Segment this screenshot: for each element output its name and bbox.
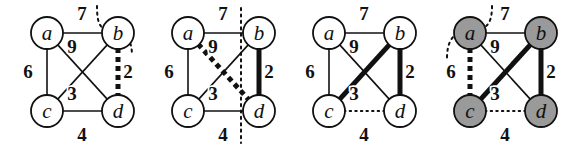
weight-label-ad: 9 [67,36,77,57]
node-a-label: a [42,21,53,45]
node-d-label: d [113,99,124,123]
panel-4-canvas: abcd776699332244 [423,0,564,147]
weight-label-cd: 4 [218,124,228,145]
panel-3: abcd776699332244 [282,0,423,147]
node-c-label: c [42,99,52,123]
node-b-label: b [395,21,406,45]
panel-3-canvas: abcd776699332244 [282,0,423,147]
node-a-label: a [324,21,335,45]
weight-label-bc: 3 [490,83,500,104]
weight-label-ac: 6 [446,61,456,82]
weight-label-cd: 4 [359,124,369,145]
weight-label-bc: 3 [208,83,218,104]
node-d-label: d [395,99,406,123]
weight-label-ac: 6 [164,61,174,82]
node-c-label: c [465,99,475,123]
weight-label-ab: 7 [77,3,87,24]
weight-label-bd: 2 [405,61,415,82]
weight-label-ab: 7 [500,3,510,24]
weight-label-ab: 7 [359,3,369,24]
weight-label-bd: 2 [264,61,274,82]
node-b-label: b [254,21,265,45]
panel-4: abcd776699332244 [423,0,564,147]
weight-label-ac: 6 [305,61,315,82]
weight-label-ad: 9 [490,36,500,57]
node-c-label: c [324,99,334,123]
node-c-label: c [183,99,193,123]
panel-1-canvas: abcd776699332244 [0,0,141,147]
weight-label-bc: 3 [67,83,77,104]
panel-2: abcd776699332244 [141,0,282,147]
panel-1: abcd776699332244 [0,0,141,147]
weight-label-bc: 3 [349,83,359,104]
weight-label-ad: 9 [349,36,359,57]
weight-label-bd: 2 [123,61,133,82]
weight-label-ab: 7 [218,3,228,24]
node-a-label: a [183,21,194,45]
weight-label-ac: 6 [23,61,33,82]
weight-label-cd: 4 [500,124,510,145]
panel-2-canvas: abcd776699332244 [141,0,282,147]
node-b-label: b [113,21,124,45]
weight-label-cd: 4 [77,124,87,145]
node-a-label: a [465,21,476,45]
weight-label-bd: 2 [546,61,556,82]
weight-label-ad: 9 [208,36,218,57]
node-d-label: d [254,99,265,123]
mst-graph-sequence-figure: abcd776699332244abcd776699332244abcd7766… [0,0,564,147]
node-d-label: d [536,99,547,123]
node-b-label: b [536,21,547,45]
